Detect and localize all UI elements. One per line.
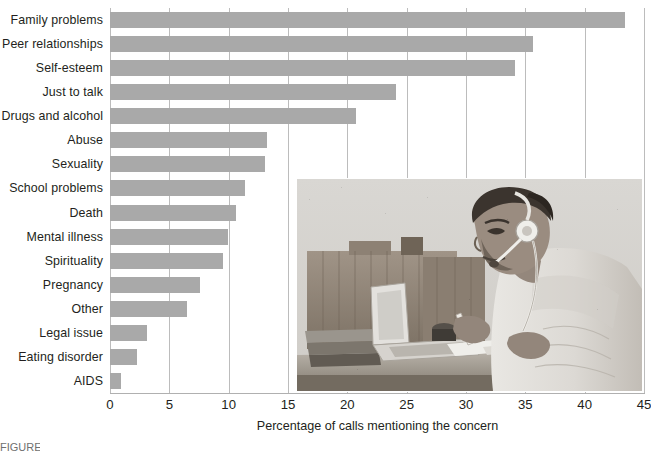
bar-row: Drugs and alcohol	[0, 104, 650, 128]
bar-row: Sexuality	[0, 152, 650, 176]
category-label: Peer relationships	[2, 37, 103, 51]
x-tick-15: 15	[281, 397, 296, 412]
category-label: Abuse	[67, 133, 103, 147]
category-label: Drugs and alcohol	[1, 109, 103, 123]
bar-pregnancy	[110, 277, 200, 293]
x-tick-20: 20	[340, 397, 355, 412]
bar-legal-issue	[110, 325, 147, 341]
bar-sexuality	[110, 156, 265, 172]
bar-aids	[110, 373, 121, 389]
bar-just-to-talk	[110, 84, 396, 100]
figure-caption-sliver: FIGURE	[0, 441, 40, 451]
x-tick-45: 45	[637, 397, 651, 412]
x-axis-line	[110, 393, 645, 394]
bar-row: Abuse	[0, 128, 650, 152]
x-tick-25: 25	[399, 397, 414, 412]
x-tick-40: 40	[577, 397, 592, 412]
bar-row: Just to talk	[0, 80, 650, 104]
bar-eating-disorder	[110, 349, 137, 365]
category-label: Pregnancy	[43, 278, 103, 292]
x-tick-10: 10	[221, 397, 236, 412]
category-label: Mental illness	[27, 230, 103, 244]
bar-death	[110, 205, 236, 221]
x-tick-0: 0	[106, 397, 113, 412]
category-label: Other	[72, 302, 104, 316]
bar-row: Self-esteem	[0, 56, 650, 80]
category-label: Eating disorder	[18, 350, 103, 364]
category-label: AIDS	[74, 374, 103, 388]
x-axis-title: Percentage of calls mentioning the conce…	[110, 419, 645, 433]
category-label: Self-esteem	[36, 61, 103, 75]
bar-mental-illness	[110, 229, 228, 245]
counselor-photo	[297, 179, 642, 391]
category-label: Sexuality	[52, 157, 103, 171]
bar-peer-relationships	[110, 36, 533, 52]
category-label: Just to talk	[43, 85, 103, 99]
category-label: Legal issue	[39, 326, 103, 340]
bar-spirituality	[110, 253, 223, 269]
x-tick-labels: 0 5 10 15 20 25 30 35 40 45	[0, 397, 650, 417]
category-label: Death	[69, 206, 103, 220]
bar-abuse	[110, 132, 267, 148]
bar-drugs-and-alcohol	[110, 108, 356, 124]
bar-family-problems	[110, 12, 625, 28]
bar-row: Peer relationships	[0, 32, 650, 56]
bar-row: Family problems	[0, 8, 650, 32]
category-label: Spirituality	[45, 254, 103, 268]
bar-other	[110, 301, 187, 317]
x-tick-35: 35	[518, 397, 533, 412]
category-label: Family problems	[11, 13, 103, 27]
x-tick-5: 5	[166, 397, 173, 412]
category-label: School problems	[9, 181, 103, 195]
bar-self-esteem	[110, 60, 515, 76]
bar-school-problems	[110, 180, 245, 196]
x-tick-30: 30	[459, 397, 474, 412]
